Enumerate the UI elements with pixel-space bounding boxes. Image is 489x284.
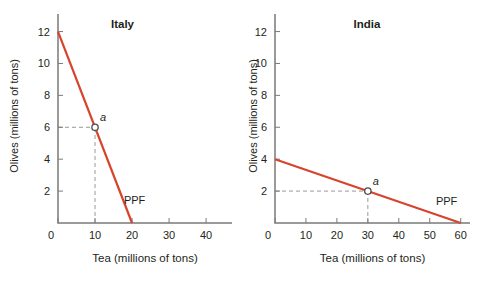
point-a-marker — [92, 124, 98, 130]
chart-india: 010203040506024681012PPFa India Olives (… — [245, 0, 489, 284]
y-tick-label: 6 — [261, 121, 267, 133]
chart-title-italy: Italy — [0, 18, 245, 30]
x-tick-label: 10 — [300, 229, 312, 241]
x-tick-label: 20 — [126, 229, 138, 241]
x-tick-label: 30 — [163, 229, 175, 241]
point-a-marker — [365, 188, 371, 194]
ppf-plot-india: 010203040506024681012PPFa — [245, 0, 489, 284]
x-axis-label-italy: Tea (millions of tons) — [58, 252, 232, 264]
ppf-label: PPF — [124, 194, 146, 206]
y-tick-label: 4 — [261, 153, 267, 165]
ppf-plot-italy: 01020304024681012PPFa — [0, 0, 245, 284]
y-tick-label: 8 — [44, 89, 50, 101]
ppf-label: PPF — [436, 195, 458, 207]
point-a-label: a — [100, 111, 106, 123]
y-axis-label-italy: Olives (millions of tons) — [8, 6, 20, 226]
y-tick-label: 2 — [261, 185, 267, 197]
x-tick-label: 40 — [393, 229, 405, 241]
x-tick-label: 60 — [455, 229, 467, 241]
x-tick-label: 40 — [200, 229, 212, 241]
point-a-label: a — [373, 175, 379, 187]
chart-italy: 01020304024681012PPFa Italy Olives (mill… — [0, 0, 245, 284]
x-axis-label-india: Tea (millions of tons) — [275, 252, 470, 264]
x-tick-label: 50 — [424, 229, 436, 241]
y-tick-label: 6 — [44, 121, 50, 133]
y-tick-label: 4 — [44, 153, 50, 165]
ppf-figure: 01020304024681012PPFa Italy Olives (mill… — [0, 0, 489, 284]
x-tick-label: 20 — [331, 229, 343, 241]
x-tick-label: 10 — [89, 229, 101, 241]
axes — [58, 14, 232, 223]
y-tick-label: 2 — [44, 185, 50, 197]
y-tick-label: 10 — [38, 57, 50, 69]
chart-title-india: India — [245, 18, 489, 30]
x-tick-label: 0 — [48, 229, 54, 241]
y-axis-label-india: Olives (millions of tons) — [247, 6, 259, 226]
x-tick-label: 0 — [265, 229, 271, 241]
x-tick-label: 30 — [362, 229, 374, 241]
y-tick-label: 8 — [261, 89, 267, 101]
